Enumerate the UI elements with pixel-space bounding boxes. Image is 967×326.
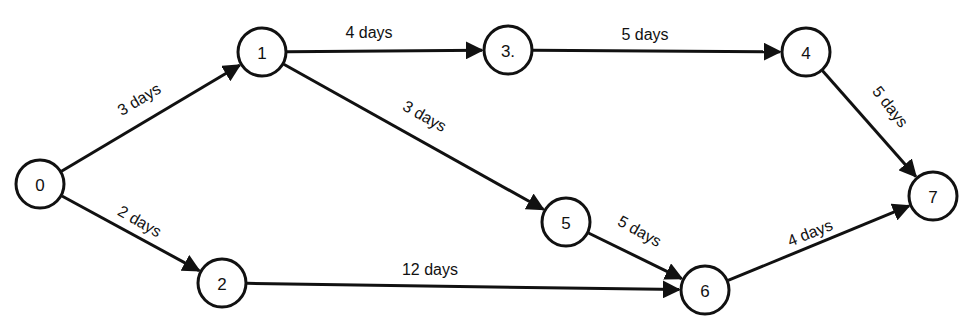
edge-duration-label: 4 days xyxy=(785,216,835,249)
edge-3-to-4 xyxy=(533,50,780,52)
edge-duration-label: 5 days xyxy=(621,26,668,43)
node-label: 3. xyxy=(501,42,515,61)
nodes-layer: 0123.4567 xyxy=(16,26,957,314)
node-label: 6 xyxy=(700,282,709,301)
edge-duration-label: 4 days xyxy=(345,24,392,41)
arrow-line xyxy=(728,206,909,281)
node-label: 1 xyxy=(257,44,266,63)
arrow-line xyxy=(287,50,482,52)
node-5: 5 xyxy=(542,198,590,246)
arrow-line xyxy=(247,283,679,289)
arrow-line xyxy=(533,50,780,52)
edge-duration-label: 5 days xyxy=(869,83,911,131)
node-2: 2 xyxy=(198,259,246,307)
arrow-line xyxy=(284,64,543,209)
edge-duration-label: 2 days xyxy=(115,202,164,240)
node-1: 1 xyxy=(238,28,286,76)
edge-5-to-6 xyxy=(588,233,681,279)
node-label: 7 xyxy=(928,188,937,207)
node-4: 4 xyxy=(782,28,830,76)
node-6: 6 xyxy=(681,266,729,314)
node-0: 0 xyxy=(16,160,64,208)
edges-layer xyxy=(61,50,915,289)
node-label: 4 xyxy=(801,44,810,63)
node-7: 7 xyxy=(909,172,957,220)
arrow-line xyxy=(61,65,239,171)
node-label: 5 xyxy=(561,214,570,233)
edge-6-to-7 xyxy=(728,206,909,281)
edge-duration-label: 3 days xyxy=(400,97,449,135)
node-label: 0 xyxy=(35,176,44,195)
edge-1-to-3 xyxy=(287,50,482,52)
edge-duration-label: 5 days xyxy=(615,212,664,250)
network-diagram: 3 days2 days4 days3 days5 days5 days5 da… xyxy=(0,0,967,326)
node-3: 3. xyxy=(484,26,532,74)
edge-0-to-1 xyxy=(61,65,239,171)
edge-2-to-6 xyxy=(247,283,679,289)
arrow-line xyxy=(588,233,681,279)
edge-duration-label: 12 days xyxy=(402,261,458,278)
node-label: 2 xyxy=(217,275,226,294)
edge-duration-label: 3 days xyxy=(115,80,164,119)
edge-1-to-5 xyxy=(284,64,543,209)
